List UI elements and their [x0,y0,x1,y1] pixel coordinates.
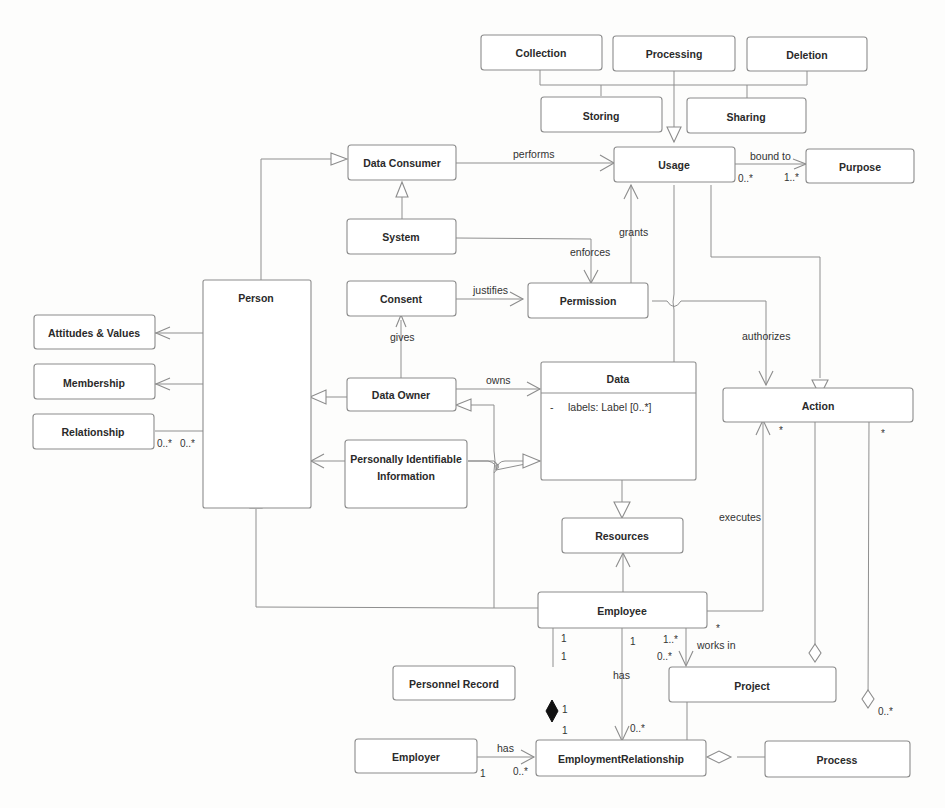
class-data-owner[interactable]: Data Owner [347,378,456,411]
edge-label-executes: executes [719,511,761,523]
edge-label-bound-to: bound to [750,150,791,162]
class-deletion[interactable]: Deletion [747,37,867,71]
multiplicity: 0..* [630,723,645,734]
uml-class-diagram: Collection Processing Deletion Storing S… [0,0,945,808]
edge-label-owns: owns [486,374,511,386]
multiplicity: 0..* [180,438,195,449]
class-label: Action [802,400,835,412]
edge-label-performs: performs [513,148,554,160]
class-label: Employee [597,605,647,617]
connector-usage-data [673,185,674,362]
class-label: Resources [595,530,649,542]
class-process[interactable]: Process [765,741,910,777]
multiplicity: 0..* [657,651,672,662]
edge-label-gives: gives [390,331,415,343]
multiplicity: 1 [562,704,568,715]
multiplicity: 0..* [513,766,528,777]
class-usage[interactable]: Usage [614,147,735,182]
class-storing[interactable]: Storing [541,97,662,132]
diagram-svg: Collection Processing Deletion Storing S… [0,0,945,808]
multiplicity: 1 [561,633,567,644]
class-label: Processing [646,48,703,60]
class-project[interactable]: Project [669,667,836,702]
connector-employee-person [256,509,494,608]
attribute-visibility-marker: - [550,401,554,413]
generalization-arrow-resources [614,502,630,518]
class-employment-relationship[interactable]: EmploymentRelationship [536,740,706,776]
edge-label-justifies: justifies [472,284,508,296]
multiplicity: 1 [562,725,568,736]
class-label: Consent [380,293,423,305]
edge-label-grants: grants [619,226,648,238]
class-label: Data [607,373,630,385]
class-attitudes-values[interactable]: Attitudes & Values [34,315,155,349]
class-consent[interactable]: Consent [347,281,456,316]
class-label: Data Consumer [363,157,441,169]
class-label: Process [817,754,858,766]
class-label: System [382,231,419,243]
class-personnel-record[interactable]: Personnel Record [393,666,515,700]
class-label: Membership [63,377,125,389]
class-employee[interactable]: Employee [538,592,707,628]
class-label: Person [238,292,274,304]
class-attribute-labels: labels: Label [0..*] [568,401,652,413]
class-sharing[interactable]: Sharing [687,98,806,133]
class-purpose[interactable]: Purpose [806,149,914,183]
aggregation-diamond-project [809,644,821,662]
multiplicity: 0..* [878,706,893,717]
aggregation-diamond-process [862,690,874,708]
class-action[interactable]: Action [723,388,913,422]
composition-diamond-record [546,700,558,722]
generalization-arrow-data-pii [523,454,540,468]
class-label: Purpose [839,161,881,173]
class-relationship[interactable]: Relationship [33,414,154,449]
connector-employee-dataowner [470,405,540,608]
class-data-consumer[interactable]: Data Consumer [348,145,456,180]
generalization-arrow-dataconsumer-person [331,153,347,165]
class-label: Relationship [61,426,124,438]
class-label-line1: Personally Identifiable [350,453,462,465]
generalization-arrow-dataconsumer-system [396,182,408,197]
class-label: Attitudes & Values [48,327,140,339]
class-label: Project [734,680,770,692]
class-system[interactable]: System [347,219,456,254]
generalization-arrow-usage [667,127,681,142]
class-label: Sharing [726,111,765,123]
multiplicity: * [716,623,720,634]
class-label: Personnel Record [409,678,499,690]
class-person[interactable]: Person [203,280,311,508]
class-permission[interactable]: Permission [528,283,648,318]
connector-person-dataconsumer [261,159,337,280]
class-data[interactable]: Data - labels: Label [0..*] [541,362,696,480]
multiplicity: 1..* [784,172,799,183]
class-membership[interactable]: Membership [34,364,155,399]
edge-label-authorizes: authorizes [742,330,790,342]
connector-action-process [868,420,869,708]
multiplicity: * [779,425,783,436]
multiplicity: 1 [630,636,636,647]
class-collection[interactable]: Collection [481,35,602,70]
edge-label-enforces: enforces [570,246,610,258]
class-label: Employer [392,751,440,763]
multiplicity: 1 [561,651,567,662]
class-label: Data Owner [372,389,430,401]
class-label: Usage [658,159,690,171]
class-label: EmploymentRelationship [558,753,684,765]
class-resources[interactable]: Resources [562,518,683,553]
edge-label-has-employer: has [497,742,514,754]
class-label-line2: Information [377,470,435,482]
class-label: Permission [560,295,617,307]
multiplicity: 1..* [663,634,678,645]
edge-label-has-employee: has [613,669,630,681]
multiplicity: * [881,428,885,439]
generalization-arrow-person-dataowner [310,390,326,404]
class-label: Storing [583,110,620,122]
multiplicity: 0..* [738,173,753,184]
class-personally-identifiable-information[interactable]: Personally Identifiable Information [345,440,467,508]
class-employer[interactable]: Employer [355,739,477,773]
class-processing[interactable]: Processing [613,36,735,71]
aggregation-diamond-employment [707,751,731,763]
multiplicity: 0..* [157,438,172,449]
class-label: Deletion [786,49,827,61]
class-label: Collection [516,47,567,59]
